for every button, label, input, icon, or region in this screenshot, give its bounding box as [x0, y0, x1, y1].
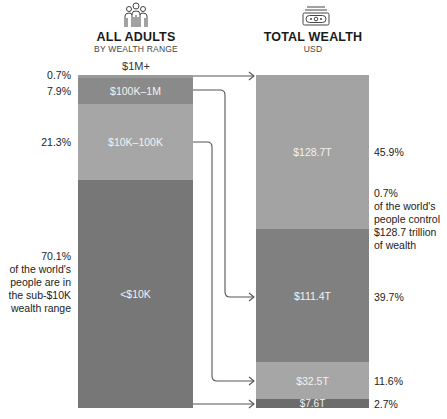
arrow-100k-1m	[193, 90, 254, 297]
flow-arrows	[0, 0, 447, 419]
arrow-10k-100k	[193, 142, 254, 381]
